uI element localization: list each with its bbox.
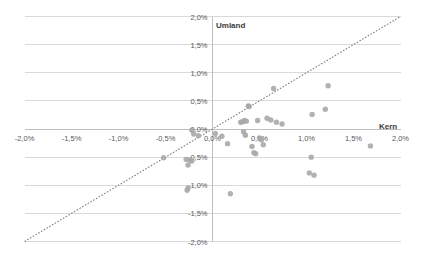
- data-point: [368, 143, 373, 148]
- svg-text:-1,5%: -1,5%: [62, 134, 82, 143]
- data-point: [191, 131, 196, 136]
- data-point: [161, 155, 166, 160]
- data-point: [228, 191, 233, 196]
- data-point: [255, 118, 260, 123]
- data-point: [311, 172, 316, 177]
- data-point: [189, 158, 194, 163]
- data-point: [243, 132, 248, 137]
- data-point: [309, 112, 314, 117]
- data-point: [196, 133, 201, 138]
- data-point: [185, 162, 190, 167]
- svg-text:1,5%: 1,5%: [190, 41, 207, 50]
- data-point: [325, 83, 330, 88]
- scatter-chart: -2,0%-1,5%-1,0%-0,5%0,0%0,5%1,0%1,5%2,0%…: [0, 0, 424, 261]
- data-point: [261, 142, 266, 147]
- x-axis-tick-labels: -2,0%-1,5%-1,0%-0,5%0,0%0,5%1,0%1,5%2,0%: [15, 134, 410, 143]
- data-point: [323, 107, 328, 112]
- svg-text:0,0%: 0,0%: [204, 134, 221, 143]
- svg-text:2,0%: 2,0%: [190, 13, 207, 22]
- data-point: [244, 118, 249, 123]
- svg-text:-2,0%: -2,0%: [188, 238, 208, 247]
- data-point: [271, 86, 276, 91]
- data-point: [225, 141, 230, 146]
- x-axis-title: Kern: [379, 122, 397, 131]
- svg-text:2,0%: 2,0%: [392, 134, 409, 143]
- plot-canvas: -2,0%-1,5%-1,0%-0,5%0,0%0,5%1,0%1,5%2,0%…: [0, 0, 424, 261]
- data-point: [184, 188, 189, 193]
- svg-text:-1,5%: -1,5%: [188, 209, 208, 218]
- data-point: [309, 154, 314, 159]
- data-point: [307, 170, 312, 175]
- svg-text:1,0%: 1,0%: [190, 69, 207, 78]
- data-point: [249, 144, 254, 149]
- svg-text:-1,0%: -1,0%: [188, 181, 208, 190]
- data-point: [259, 137, 264, 142]
- data-point: [279, 121, 284, 126]
- data-point: [253, 151, 258, 156]
- data-point: [274, 120, 279, 125]
- svg-text:-1,0%: -1,0%: [109, 134, 129, 143]
- data-point: [219, 134, 224, 139]
- svg-text:1,5%: 1,5%: [345, 134, 362, 143]
- svg-text:1,0%: 1,0%: [298, 134, 315, 143]
- svg-text:0,5%: 0,5%: [190, 97, 207, 106]
- svg-text:-0,5%: -0,5%: [156, 134, 176, 143]
- data-point: [246, 104, 251, 109]
- data-point: [268, 117, 273, 122]
- data-point: [213, 131, 218, 136]
- svg-text:-2,0%: -2,0%: [15, 134, 35, 143]
- y-axis-title: Umland: [216, 21, 245, 30]
